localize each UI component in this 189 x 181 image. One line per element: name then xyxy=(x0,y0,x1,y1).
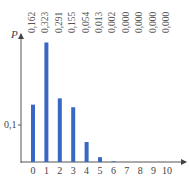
x-tick-label-1: 1 xyxy=(44,165,49,176)
value-label-2: 0,291 xyxy=(54,12,64,33)
bar-0 xyxy=(31,105,35,162)
bars-group xyxy=(31,42,115,162)
x-tick-label-4: 4 xyxy=(84,165,89,176)
bar-3 xyxy=(71,107,75,162)
value-label-5: 0,013 xyxy=(94,12,104,33)
x-tick-label-2: 2 xyxy=(57,165,62,176)
x-tick-label-8: 8 xyxy=(138,165,143,176)
x-tick-label-5: 5 xyxy=(98,165,103,176)
value-label-8: 0,000 xyxy=(134,12,144,33)
x-tick-label-9: 9 xyxy=(151,165,156,176)
value-label-9: 0,000 xyxy=(148,12,158,33)
value-label-0: 0,162 xyxy=(27,12,37,33)
value-label-3: 0,155 xyxy=(67,12,77,33)
bar-6 xyxy=(111,161,115,162)
bar-4 xyxy=(85,142,89,162)
x-tick-label-10: 10 xyxy=(162,165,172,176)
x-tick-label-3: 3 xyxy=(71,165,76,176)
bar-2 xyxy=(58,98,62,162)
value-label-7: 0,000 xyxy=(121,12,131,33)
value-label-1: 0,323 xyxy=(40,12,50,33)
value-label-6: 0,002 xyxy=(107,12,117,33)
value-label-10: 0,000 xyxy=(161,12,171,33)
bar-5 xyxy=(98,157,102,162)
value-label-4: 0,054 xyxy=(81,12,91,33)
x-tick-label-0: 0 xyxy=(31,165,36,176)
x-tick-label-7: 7 xyxy=(124,165,129,176)
y-axis-label: P xyxy=(11,28,18,40)
x-tick-labels: 012345678910 xyxy=(31,165,173,176)
bar-1 xyxy=(44,42,48,162)
x-tick-label-6: 6 xyxy=(111,165,116,176)
y-tick-label: 0,1 xyxy=(4,119,17,130)
